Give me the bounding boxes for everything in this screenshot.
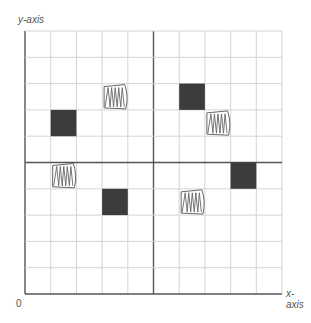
filled-square [179, 84, 205, 110]
scribbled-square [181, 190, 204, 214]
scribbled-square [53, 164, 76, 188]
filled-square [231, 163, 257, 189]
y-axis-label: y-axis [18, 14, 44, 25]
filled-square [51, 110, 77, 136]
x-axis-label: x-axis [286, 288, 311, 310]
scribbled-square [104, 85, 127, 109]
scribbled-square [207, 111, 230, 135]
filled-square [102, 189, 128, 215]
origin-label: 0 [16, 298, 22, 309]
coordinate-grid [0, 0, 311, 323]
